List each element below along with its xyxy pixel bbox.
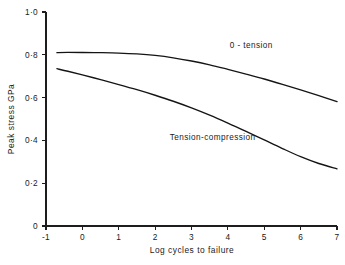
chart-data-series bbox=[57, 52, 337, 168]
chart-axes bbox=[46, 12, 337, 226]
y-tick-label: 0·6 bbox=[25, 93, 38, 103]
series-curve-2 bbox=[57, 69, 337, 169]
line-chart-plot: 00·20·40·60·81·0 -101234567 0 - tensionT… bbox=[0, 0, 345, 265]
series-annotations: 0 - tensionTension-compression bbox=[170, 41, 273, 142]
x-tick-label: 5 bbox=[262, 232, 267, 242]
y-tick-label: 0·2 bbox=[25, 178, 38, 188]
series-label-2: Tension-compression bbox=[170, 133, 256, 142]
x-axis-title: Log cycles to failure bbox=[150, 245, 235, 255]
x-tick-label: 0 bbox=[80, 232, 85, 242]
series-curve-1 bbox=[57, 52, 337, 101]
x-tick-label: 2 bbox=[153, 232, 158, 242]
y-tick-label: 0·4 bbox=[25, 135, 38, 145]
x-tick-label: 6 bbox=[298, 232, 303, 242]
x-tick-label: 4 bbox=[225, 232, 230, 242]
y-tick-label: 1·0 bbox=[25, 7, 38, 17]
y-tick-label: 0 bbox=[33, 221, 38, 231]
y-axis-tick-labels: 00·20·40·60·81·0 bbox=[25, 7, 38, 231]
x-tick-label: 3 bbox=[189, 232, 194, 242]
x-tick-label: -1 bbox=[42, 232, 50, 242]
chart-tick-marks bbox=[42, 12, 337, 230]
x-tick-label: 1 bbox=[116, 232, 121, 242]
y-axis-title: Peak stress GPa bbox=[6, 84, 16, 154]
series-label-1: 0 - tension bbox=[230, 41, 273, 50]
x-tick-label: 7 bbox=[335, 232, 340, 242]
x-axis-tick-labels: -101234567 bbox=[42, 232, 340, 242]
y-tick-label: 0·8 bbox=[25, 50, 38, 60]
axis-spines bbox=[46, 12, 337, 226]
chart-figure: 00·20·40·60·81·0 -101234567 0 - tensionT… bbox=[0, 0, 345, 265]
